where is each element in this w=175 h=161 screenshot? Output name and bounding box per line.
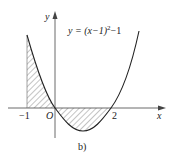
figure: y x O −1 2 y = (x−1)2−1 b) xyxy=(0,0,175,161)
figure-caption: b) xyxy=(78,141,86,153)
tick-label-neg-one: −1 xyxy=(19,110,30,121)
shaded-region-left xyxy=(27,35,55,108)
origin-label: O xyxy=(46,110,53,121)
tick-label-two: 2 xyxy=(112,110,117,121)
parabola-diagram: y x O −1 2 y = (x−1)2−1 b) xyxy=(0,0,175,161)
equation-label: y = (x−1)2−1 xyxy=(67,24,121,37)
y-axis-arrow-icon xyxy=(53,11,58,19)
x-axis-label: x xyxy=(156,110,162,121)
y-axis-label: y xyxy=(44,11,50,22)
